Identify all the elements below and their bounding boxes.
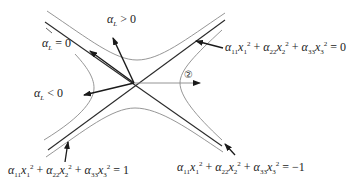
var-sub: 1 [26,171,30,179]
var-sub: 3 [103,171,107,179]
asymptote-parallel-tick [46,28,52,33]
label-circled-two: ② [184,70,193,80]
var-sub: 1 [195,168,199,176]
equation-cone: α11x12 + α22x22 + α33x32 = 0 [225,41,346,56]
asymptote-line-ascending [48,20,225,150]
vector-alpha-l-positive [113,38,134,83]
label-alpha-l-negative: αL < 0 [34,87,63,102]
rhs: = 1 [110,163,129,177]
equation-two-sheet: α11x12 + α22x22 + α33x32 = −1 [177,161,305,176]
relation: = 0 [52,36,71,50]
var-sub: 1 [243,48,247,56]
var-sub: 3 [320,48,324,56]
vector-alpha-l-zero [90,51,134,83]
var-sub: 2 [234,168,238,176]
plus: + [202,160,215,174]
label-alpha-l-zero: αL = 0 [42,37,71,52]
var-sub: 2 [65,171,69,179]
plus: + [250,40,263,54]
label-alpha-l-positive: αL > 0 [107,13,136,28]
var-sub: 3 [272,168,276,176]
coef-sub: 33 [308,48,315,56]
vector-alpha-l-negative [84,83,134,95]
rhs: = 0 [327,40,346,54]
relation: > 0 [117,12,136,26]
relation: < 0 [44,86,63,100]
asymptote-line-descending [45,22,222,146]
plus: + [241,160,254,174]
plus: + [72,163,85,177]
callout-arrow-one-sheet [65,142,68,162]
coef-sub: 33 [91,171,98,179]
equation-one-sheet: α11x12 + α22x22 + α33x32 = 1 [8,164,129,179]
var-sub: 2 [282,48,286,56]
rhs: = −1 [279,160,305,174]
callout-arrow-two-sheet [225,144,235,155]
plus: + [33,163,46,177]
plus: + [289,40,302,54]
coef-sub: 33 [260,168,267,176]
